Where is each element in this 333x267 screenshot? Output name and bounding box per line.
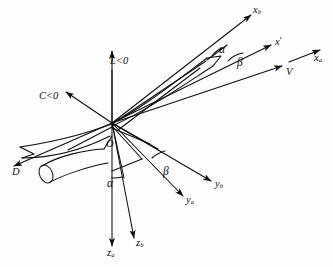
angle-label-alpha-lower: α: [107, 178, 113, 190]
angle-label-beta-lower: β: [163, 166, 169, 178]
aircraft-fuselage-lower: [50, 163, 108, 182]
aircraft-wing-upper-root: [118, 68, 200, 130]
vector-line-side-force: [66, 92, 112, 123]
axis-label-x-body: xb: [253, 5, 261, 16]
origin-label: O: [106, 139, 114, 150]
angle-label-alpha-upper: α: [219, 44, 225, 56]
aircraft-tailplane-lower: [112, 159, 142, 171]
vector-label-side-force: C<0: [39, 91, 58, 102]
axis-line-y-air-path: [112, 123, 183, 196]
axis-line-x-prime: [112, 45, 271, 123]
aircraft-wing-upper-spar: [112, 61, 206, 124]
aircraft-wing-lower-trailing: [22, 136, 110, 158]
axis-label-x-air-path: xa: [314, 53, 322, 64]
aircraft-wing-upper-tip: [207, 56, 221, 66]
aircraft-fuselage-nose: [36, 163, 55, 185]
aircraft-wing-upper: [112, 58, 207, 123]
axis-label-z-body: zb: [136, 238, 144, 249]
aircraft-fuselage: [42, 149, 104, 166]
vector-label-velocity: V: [286, 67, 292, 78]
axis-line-x-body: [112, 15, 251, 123]
aircraft-body-ref-line: [112, 123, 158, 149]
axis-label-y-body: yb: [215, 179, 223, 190]
axis-label-y-air-path: ya: [186, 195, 194, 206]
vector-label-drag: D: [12, 167, 20, 178]
angle-arc-beta-lower: [152, 151, 165, 158]
axis-label-x-prime: x′: [275, 36, 282, 48]
vector-label-lift: L<0: [110, 56, 128, 67]
axes-diagram: [0, 0, 333, 267]
angle-arc-alpha-lower: [112, 177, 122, 178]
aircraft-body-ref-line-2: [112, 128, 150, 144]
figure-canvas: O xb x′ xa yb ya zb za V L<0 C<0 D α β β…: [0, 0, 333, 267]
axis-label-z-air-path: za: [107, 248, 115, 259]
vector-line-velocity: [112, 66, 282, 123]
angle-label-beta-upper: β: [237, 57, 243, 69]
aircraft-wing-lower-tip: [20, 147, 34, 158]
